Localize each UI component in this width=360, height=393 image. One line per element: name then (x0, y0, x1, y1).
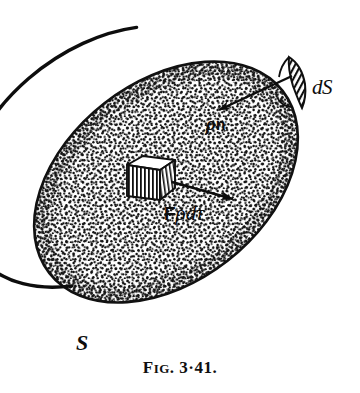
figure-caption: FIG. 3·41. (0, 358, 360, 378)
caption-number-major: 3 (179, 358, 188, 377)
closed-surface-s (0, 0, 360, 393)
figure-container: dS ρn Fρdτ S FIG. 3·41. (0, 0, 360, 393)
volume-element-box (127, 156, 175, 200)
caption-fig-ig: IG (154, 361, 170, 376)
figure-drawing (0, 0, 360, 393)
caption-fig-f: F (143, 358, 154, 377)
caption-number-minor: 41 (194, 358, 212, 377)
caption-end-dot: . (212, 358, 217, 377)
caption-fig-dot: . (170, 358, 175, 377)
box-front-face (127, 165, 160, 200)
